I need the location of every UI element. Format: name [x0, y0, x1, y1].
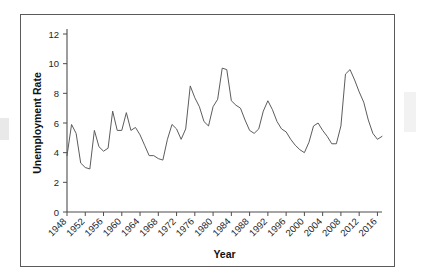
scan-artifact-left: [0, 118, 9, 140]
chart-svg: 024681012 194819521956196019641968197219…: [21, 15, 396, 268]
y-tick-label: 0: [54, 207, 59, 218]
y-tick-label: 4: [54, 147, 59, 158]
x-tick-label: 1996: [265, 216, 288, 239]
x-tick-label: 1960: [100, 216, 123, 239]
unemployment-rate-line-chart: 024681012 194819521956196019641968197219…: [21, 15, 396, 268]
y-axis: 024681012: [48, 29, 67, 218]
y-axis-title: Unemployment Rate: [31, 72, 43, 174]
figure-frame: 024681012 194819521956196019641968197219…: [20, 14, 395, 267]
y-tick-group: 024681012: [48, 29, 67, 218]
y-tick-label: 6: [54, 118, 59, 129]
x-tick-label: 1968: [137, 216, 160, 239]
x-tick-label: 2012: [338, 216, 361, 239]
x-tick-label: 2008: [320, 216, 343, 239]
unemployment-rate-series: [67, 68, 382, 169]
x-tick-label: 1980: [192, 216, 215, 239]
y-tick-label: 10: [48, 58, 59, 69]
x-tick-group: 1948195219561960196419681972197619801984…: [46, 212, 379, 238]
y-tick-label: 8: [54, 88, 59, 99]
x-tick-label: 2004: [301, 216, 324, 239]
x-tick-label: 1972: [155, 216, 178, 239]
x-tick-label: 2016: [356, 216, 379, 239]
x-tick-label: 1984: [210, 216, 233, 239]
x-tick-label: 1952: [64, 216, 87, 239]
x-tick-label: 1964: [119, 216, 142, 239]
x-axis: 1948195219561960196419681972197619801984…: [46, 212, 382, 238]
x-tick-label: 2000: [283, 216, 306, 239]
y-tick-label: 2: [54, 177, 59, 188]
x-tick-label: 1976: [174, 216, 197, 239]
x-tick-label: 1948: [46, 216, 69, 239]
scan-artifact-right: [404, 92, 416, 132]
x-tick-label: 1992: [247, 216, 270, 239]
x-tick-label: 1956: [82, 216, 105, 239]
y-tick-label: 12: [48, 29, 59, 40]
x-axis-title: Year: [213, 248, 235, 260]
x-tick-label: 1988: [228, 216, 251, 239]
